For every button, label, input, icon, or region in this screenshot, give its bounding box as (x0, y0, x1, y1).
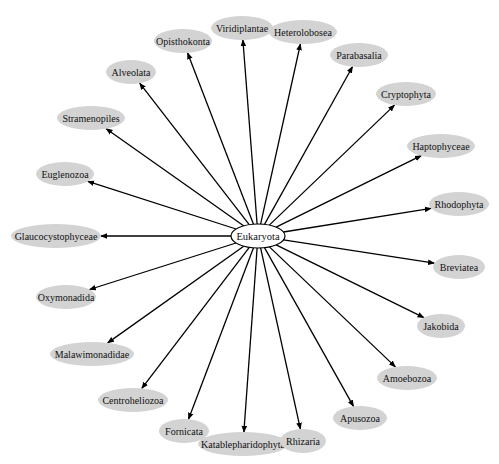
node-label: Rhodophyta (435, 199, 484, 210)
node-jakobida[interactable]: Jakobida (417, 314, 465, 338)
node-label: Parabasalia (336, 50, 382, 61)
node-opisthokonta[interactable]: Opisthokonta (154, 29, 212, 53)
edge-eukaryota-oxymonadida (90, 243, 237, 290)
node-label: Malawimonadidae (55, 349, 130, 360)
node-apusozoa[interactable]: Apusozoa (333, 406, 387, 430)
edge-eukaryota-centroheliozoa (142, 247, 250, 388)
edge-eukaryota-heterolobosea (261, 44, 301, 224)
node-label: Cryptophyta (381, 89, 432, 100)
node-label: Haptophyceae (412, 141, 470, 152)
node-amoebozoa[interactable]: Amoebozoa (377, 366, 437, 390)
node-label: Oxymonadida (38, 292, 95, 303)
node-haptophyceae[interactable]: Haptophyceae (407, 134, 475, 158)
node-label: Centroheliozoa (102, 395, 164, 406)
node-label: Heterolobosea (274, 27, 332, 38)
node-label: Jakobida (423, 321, 459, 332)
node-label: Stramenopiles (62, 113, 119, 124)
edge-eukaryota-viridiplantae (243, 40, 257, 224)
edge-eukaryota-cryptophyta (269, 105, 394, 225)
edge-eukaryota-katablepharidophyta (244, 248, 257, 432)
node-label: Euglenozoa (41, 169, 89, 180)
node-label: Glaucocystophyceae (15, 231, 98, 242)
edge-eukaryota-amoebozoa (269, 247, 395, 367)
node-euglenozoa[interactable]: Euglenozoa (36, 162, 94, 186)
node-label: Fornicata (165, 426, 203, 437)
node-glaucocystophyceae[interactable]: Glaucocystophyceae (11, 224, 101, 248)
node-rhodophyta[interactable]: Rhodophyta (429, 192, 489, 216)
phylogeny-diagram: ViridiplantaeHeteroloboseaOpisthokontaPa… (0, 0, 499, 464)
root-node-eukaryota[interactable]: Eukaryota (231, 224, 285, 248)
node-label: Amoebozoa (383, 373, 432, 384)
edge-eukaryota-opisthokonta (188, 53, 254, 224)
node-label: Opisthokonta (156, 36, 210, 47)
node-centroheliozoa[interactable]: Centroheliozoa (98, 388, 168, 412)
node-parabasalia[interactable]: Parabasalia (330, 43, 388, 67)
node-stramenopiles[interactable]: Stramenopiles (57, 106, 125, 130)
edge-eukaryota-haptophyceae (276, 156, 421, 227)
node-malawimonadidae[interactable]: Malawimonadidae (50, 342, 134, 366)
node-oxymonadida[interactable]: Oxymonadida (36, 285, 96, 309)
node-label: Rhizaria (286, 436, 320, 447)
node-rhizaria[interactable]: Rhizaria (280, 429, 326, 453)
node-alveolata[interactable]: Alveolata (106, 60, 156, 84)
node-label: Viridiplantae (216, 23, 269, 34)
root-label: Eukaryota (236, 231, 279, 242)
node-katablepharidophyta[interactable]: Katablepharidophyta (198, 432, 288, 456)
node-cryptophyta[interactable]: Cryptophyta (376, 82, 436, 106)
node-viridiplantae[interactable]: Viridiplantae (211, 16, 273, 40)
node-label: Alveolata (112, 67, 151, 78)
node-label: Breviatea (440, 262, 479, 273)
node-heterolobosea[interactable]: Heterolobosea (269, 20, 337, 44)
edge-eukaryota-fornicata (189, 248, 254, 419)
node-label: Katablepharidophyta (201, 439, 285, 450)
node-breviatea[interactable]: Breviatea (433, 255, 485, 279)
node-label: Apusozoa (340, 413, 381, 424)
